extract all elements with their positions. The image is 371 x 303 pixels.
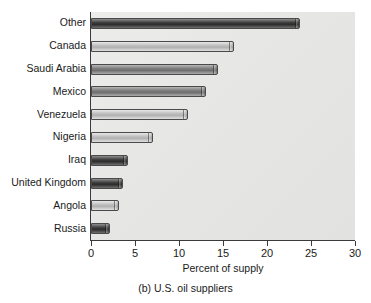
- bar-series: [91, 12, 355, 240]
- x-tick-mark: [223, 241, 224, 246]
- x-tick-label-25: 25: [296, 247, 326, 259]
- category-label-angola: Angola: [1, 200, 86, 211]
- bar-end-cap: [229, 42, 233, 51]
- x-tick-mark: [311, 241, 312, 246]
- category-label-saudi-arabia: Saudi Arabia: [1, 63, 86, 74]
- bar-nigeria: [91, 132, 153, 143]
- bar-angola: [91, 200, 119, 211]
- category-label-iraq: Iraq: [1, 154, 86, 165]
- x-tick-label-20: 20: [252, 247, 282, 259]
- figure-caption: (b) U.S. oil suppliers: [0, 282, 371, 294]
- bar-iraq: [91, 155, 128, 166]
- x-tick-mark: [91, 241, 92, 246]
- category-label-other: Other: [1, 17, 86, 28]
- x-tick-label-10: 10: [164, 247, 194, 259]
- x-tick-mark: [355, 241, 356, 246]
- figure-container: OtherCanadaSaudi ArabiaMexicoVenezuelaNi…: [0, 0, 371, 303]
- bar-end-cap: [123, 156, 127, 165]
- bar-end-cap: [118, 179, 122, 188]
- bar-end-cap: [114, 201, 118, 210]
- bar-end-cap: [148, 133, 152, 142]
- category-label-united-kingdom: United Kingdom: [1, 177, 86, 188]
- x-tick-label-15: 15: [208, 247, 238, 259]
- bar-united-kingdom: [91, 178, 123, 189]
- bar-end-cap: [213, 65, 217, 74]
- x-tick-label-5: 5: [120, 247, 150, 259]
- x-tick-label-30: 30: [340, 247, 370, 259]
- category-label-canada: Canada: [1, 40, 86, 51]
- bar-saudi-arabia: [91, 64, 218, 75]
- category-label-mexico: Mexico: [1, 86, 86, 97]
- bar-end-cap: [105, 224, 109, 233]
- bar-venezuela: [91, 109, 188, 120]
- bar-end-cap: [183, 110, 187, 119]
- category-label-nigeria: Nigeria: [1, 131, 86, 142]
- y-axis-category-labels: OtherCanadaSaudi ArabiaMexicoVenezuelaNi…: [0, 12, 86, 240]
- x-tick-mark: [267, 241, 268, 246]
- bar-other: [91, 18, 300, 29]
- bar-end-cap: [201, 87, 205, 96]
- bar-mexico: [91, 86, 206, 97]
- bar-end-cap: [295, 19, 299, 28]
- x-tick-mark: [135, 241, 136, 246]
- bar-canada: [91, 41, 234, 52]
- x-tick-mark: [179, 241, 180, 246]
- x-axis-title: Percent of supply: [91, 262, 355, 274]
- bar-russia: [91, 223, 110, 234]
- x-tick-label-0: 0: [76, 247, 106, 259]
- category-label-russia: Russia: [1, 223, 86, 234]
- category-label-venezuela: Venezuela: [1, 109, 86, 120]
